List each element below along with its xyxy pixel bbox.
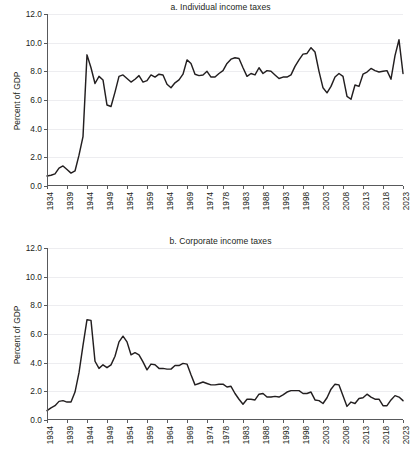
x-tick-mark: [383, 420, 384, 423]
x-tick-mark: [107, 420, 108, 423]
x-tick-mark: [207, 186, 208, 189]
y-tick-label: 4.0: [30, 358, 42, 368]
y-tick-label: 10.0: [26, 38, 42, 48]
x-tick-label: 1978: [222, 192, 231, 210]
x-tick-mark: [383, 186, 384, 189]
x-tick-mark: [323, 420, 324, 423]
x-tick-label: 1964: [166, 426, 175, 444]
x-tick-label: 1934: [46, 426, 55, 444]
x-tick-mark: [107, 186, 108, 189]
x-tick-mark: [363, 420, 364, 423]
x-tick-label: 1964: [166, 192, 175, 210]
x-tick-label: 1949: [106, 192, 115, 210]
x-tick-mark: [403, 186, 404, 189]
y-tick-label: 0.0: [30, 181, 42, 191]
x-tick-mark: [263, 186, 264, 189]
x-tick-mark: [223, 420, 224, 423]
x-tick-label: 1998: [302, 192, 311, 210]
panel-title-a: a. Individual income taxes: [0, 2, 413, 12]
x-tick-label: 2023: [402, 192, 411, 210]
y-axis-line-a: [47, 14, 48, 186]
x-tick-label: 2023: [402, 426, 411, 444]
x-tick-label: 1959: [146, 426, 155, 444]
x-tick-label: 1944: [86, 426, 95, 444]
x-tick-mark: [47, 420, 48, 423]
x-tick-mark: [303, 420, 304, 423]
chart-panel-individual-income-taxes: a. Individual income taxes Percent of GD…: [0, 0, 413, 235]
x-tick-label: 2003: [322, 426, 331, 444]
x-tick-mark: [207, 420, 208, 423]
x-tick-mark: [243, 420, 244, 423]
x-tick-mark: [87, 420, 88, 423]
y-tick-label: 12.0: [26, 9, 42, 19]
x-tick-mark: [343, 186, 344, 189]
y-tick-label: 0.0: [30, 415, 42, 425]
series-path-a: [47, 40, 403, 176]
x-tick-label: 1969: [186, 426, 195, 444]
x-tick-mark: [127, 420, 128, 423]
x-tick-mark: [187, 186, 188, 189]
x-tick-label: 1974: [206, 426, 215, 444]
x-tick-mark: [283, 420, 284, 423]
x-tick-mark: [403, 420, 404, 423]
x-tick-mark: [67, 420, 68, 423]
x-tick-label: 1983: [242, 192, 251, 210]
panel-title-b: b. Corporate income taxes: [0, 236, 413, 246]
x-tick-mark: [363, 186, 364, 189]
figure-container: a. Individual income taxes Percent of GD…: [0, 0, 413, 471]
y-axis-label-b: Percent of GDP: [12, 280, 22, 390]
x-tick-label: 2008: [342, 192, 351, 210]
x-tick-mark: [303, 186, 304, 189]
x-tick-label: 1949: [106, 426, 115, 444]
y-axis-label-a: Percent of GDP: [12, 46, 22, 156]
x-tick-label: 2008: [342, 426, 351, 444]
x-tick-label: 1974: [206, 192, 215, 210]
x-tick-mark: [283, 186, 284, 189]
x-tick-mark: [167, 186, 168, 189]
x-tick-label: 1939: [66, 426, 75, 444]
x-tick-label: 1959: [146, 192, 155, 210]
x-tick-label: 1978: [222, 426, 231, 444]
x-tick-mark: [87, 186, 88, 189]
x-tick-mark: [147, 420, 148, 423]
x-tick-mark: [127, 186, 128, 189]
line-series-b: [47, 248, 403, 420]
x-tick-mark: [47, 186, 48, 189]
y-tick-label: 4.0: [30, 124, 42, 134]
y-tick-label: 8.0: [30, 300, 42, 310]
x-tick-mark: [263, 420, 264, 423]
x-tick-mark: [243, 186, 244, 189]
y-tick-label: 6.0: [30, 95, 42, 105]
x-tick-label: 2003: [322, 192, 331, 210]
x-tick-label: 1939: [66, 192, 75, 210]
x-tick-mark: [223, 186, 224, 189]
x-tick-mark: [187, 420, 188, 423]
x-tick-mark: [147, 186, 148, 189]
x-tick-mark: [323, 186, 324, 189]
x-tick-label: 2018: [382, 426, 391, 444]
line-series-a: [47, 14, 403, 186]
x-tick-label: 1993: [282, 192, 291, 210]
x-tick-label: 1998: [302, 426, 311, 444]
x-tick-mark: [67, 186, 68, 189]
x-tick-label: 2013: [362, 426, 371, 444]
y-tick-label: 12.0: [26, 243, 42, 253]
x-tick-label: 1954: [126, 426, 135, 444]
x-tick-label: 2018: [382, 192, 391, 210]
x-tick-mark: [343, 420, 344, 423]
y-tick-label: 2.0: [30, 386, 42, 396]
chart-panel-corporate-income-taxes: b. Corporate income taxes Percent of GDP…: [0, 234, 413, 469]
plot-area-b: 0.02.04.06.08.010.012.0 1934193919441949…: [47, 248, 403, 420]
x-tick-label: 1988: [262, 192, 271, 210]
x-tick-label: 1969: [186, 192, 195, 210]
x-axis-line-a: [47, 185, 403, 186]
y-tick-label: 8.0: [30, 66, 42, 76]
x-tick-label: 1944: [86, 192, 95, 210]
x-tick-label: 1983: [242, 426, 251, 444]
series-path-b: [47, 320, 403, 411]
y-tick-label: 2.0: [30, 152, 42, 162]
x-tick-mark: [167, 420, 168, 423]
x-tick-label: 2013: [362, 192, 371, 210]
x-axis-line-b: [47, 419, 403, 420]
y-tick-label: 6.0: [30, 329, 42, 339]
